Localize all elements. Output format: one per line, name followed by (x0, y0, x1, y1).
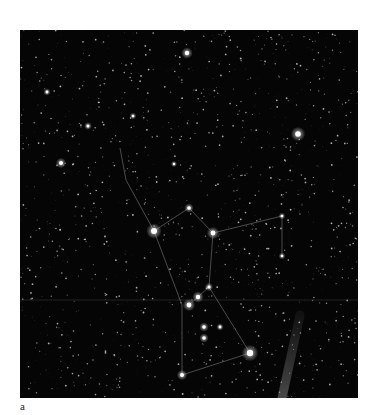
star-field-canvas (20, 30, 358, 398)
star-field-image (20, 30, 358, 398)
panel-label: a (20, 400, 25, 412)
